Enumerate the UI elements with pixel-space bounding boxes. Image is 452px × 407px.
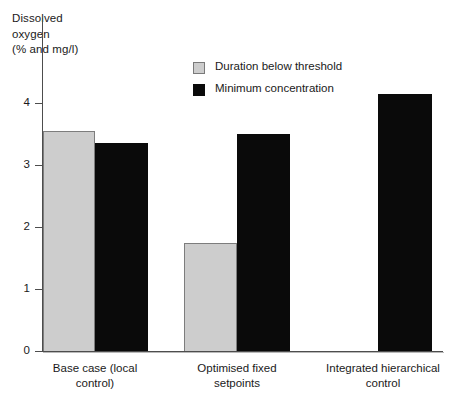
y-tick-label-3: 3 — [4, 159, 30, 171]
bar-chart: Dissolved oxygen (% and mg/l) 0 1 2 3 4 … — [0, 0, 452, 407]
y-tick-mark-4 — [35, 103, 43, 104]
x-axis-line-shadow — [43, 352, 444, 353]
y-axis-title: Dissolved oxygen (% and mg/l) — [12, 11, 78, 58]
x-category-label-optimised-fixed-setpoints: Optimised fixed setpoints — [168, 361, 306, 391]
x-axis-line — [42, 351, 443, 352]
y-tick-mark-3 — [35, 165, 43, 166]
y-tick-mark-0 — [35, 351, 43, 352]
y-tick-label-2: 2 — [4, 221, 30, 233]
bar-minimum-concentration-integrated-hierarchical-control — [378, 94, 432, 351]
y-tick-label-1: 1 — [4, 283, 30, 295]
bar-minimum-concentration-optimised-fixed-setpoints — [237, 134, 290, 351]
bar-duration-below-threshold-base-case — [43, 131, 95, 351]
x-category-label-integrated-hierarchical-control: Integrated hierarchical control — [314, 361, 452, 391]
legend-label-duration-below-threshold: Duration below threshold — [215, 59, 342, 73]
bar-duration-below-threshold-optimised-fixed-setpoints — [184, 243, 237, 351]
x-category-label-base-case: Base case (local control) — [26, 361, 164, 391]
y-tick-label-4: 4 — [4, 97, 30, 109]
legend-swatch-gray-square-icon — [193, 62, 205, 74]
legend-swatch-black-square-icon — [193, 84, 205, 96]
y-tick-label-0: 0 — [4, 345, 30, 357]
legend-label-minimum-concentration: Minimum concentration — [215, 81, 334, 95]
y-tick-mark-1 — [35, 289, 43, 290]
y-tick-mark-2 — [35, 227, 43, 228]
bar-minimum-concentration-base-case — [95, 143, 148, 351]
